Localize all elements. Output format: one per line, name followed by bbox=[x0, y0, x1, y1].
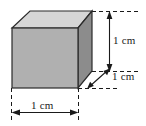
cube-shape bbox=[12, 11, 92, 88]
dimension-label-depth: 1 cm bbox=[112, 71, 135, 82]
cube-dimension-figure: 1 cm 1 cm 1 cm bbox=[0, 0, 146, 126]
dimension-width-arrow-right bbox=[70, 110, 79, 116]
cube-front-face bbox=[12, 28, 78, 88]
dimension-label-width: 1 cm bbox=[31, 100, 54, 111]
cube-diagram-canvas bbox=[0, 0, 146, 126]
dimension-label-height: 1 cm bbox=[113, 35, 136, 46]
dimension-height bbox=[107, 11, 113, 72]
dimension-height-arrow-top bbox=[107, 11, 113, 19]
dimension-width-arrow-left bbox=[12, 110, 21, 116]
